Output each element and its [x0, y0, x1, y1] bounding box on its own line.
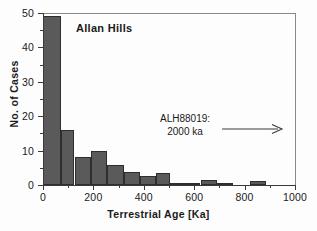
- y-axis-title: No. of Cases: [8, 44, 20, 144]
- y-tick-major: [38, 82, 43, 83]
- x-tick-label: 600: [185, 191, 203, 203]
- histogram-bar: [43, 16, 61, 185]
- y-tick-major: [38, 47, 43, 48]
- y-tick-minor: [40, 30, 43, 31]
- histogram-figure: Allan Hills 02004006008001000 0102030405…: [0, 0, 317, 231]
- x-tick-major: [194, 185, 195, 190]
- y-tick-major: [38, 185, 43, 186]
- x-tick-minor: [270, 185, 271, 188]
- histogram-bar: [156, 173, 170, 185]
- x-tick-label: 800: [236, 191, 254, 203]
- y-tick-major: [38, 116, 43, 117]
- y-tick-major: [38, 13, 43, 14]
- right-arrow-icon: [222, 123, 284, 135]
- y-tick-label: 0: [0, 179, 34, 191]
- x-tick-minor: [119, 185, 120, 188]
- x-tick-major: [43, 185, 44, 190]
- x-tick-label: 400: [135, 191, 153, 203]
- bar-series: [43, 13, 295, 185]
- histogram-bar: [107, 165, 123, 185]
- y-tick-minor: [40, 65, 43, 66]
- x-tick-minor: [219, 185, 220, 188]
- annotation-line-1: ALH88019:: [160, 113, 210, 124]
- annotation-line-2: 2000 ka: [160, 125, 210, 138]
- x-tick-major: [144, 185, 145, 190]
- y-tick-minor: [40, 133, 43, 134]
- x-tick-label: 200: [84, 191, 102, 203]
- x-tick-label: 0: [40, 191, 46, 203]
- annotation-label: ALH88019: 2000 ka: [160, 112, 210, 138]
- y-tick-minor: [40, 99, 43, 100]
- y-tick-major: [38, 151, 43, 152]
- x-axis-title: Terrestrial Age [Ka]: [0, 208, 317, 220]
- x-tick-major: [295, 185, 296, 190]
- histogram-bar: [75, 157, 91, 185]
- histogram-bar: [91, 151, 107, 185]
- x-tick-major: [245, 185, 246, 190]
- y-tick-label: 10: [0, 145, 34, 157]
- histogram-bar: [124, 172, 140, 185]
- y-tick-label: 50: [0, 7, 34, 19]
- x-tick-label: 1000: [283, 191, 307, 203]
- histogram-bar: [140, 176, 156, 185]
- x-tick-minor: [68, 185, 69, 188]
- x-tick-minor: [169, 185, 170, 188]
- histogram-bar: [61, 130, 75, 185]
- y-tick-minor: [40, 168, 43, 169]
- x-tick-major: [93, 185, 94, 190]
- y-axis-line: [43, 13, 44, 185]
